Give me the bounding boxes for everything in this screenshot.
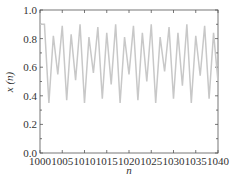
x-tick-label: 1035: [185, 155, 208, 167]
line-chart: 0.00.20.40.60.81.0 100010051010101510201…: [0, 0, 237, 183]
y-tick-label: 0.6: [23, 61, 37, 73]
x-tick-label: 1025: [140, 155, 163, 167]
x-tick-label: 1015: [96, 155, 119, 167]
y-tick-label: 1.0: [23, 4, 37, 16]
y-tick-label: 0.4: [23, 90, 37, 102]
data-line: [40, 24, 218, 103]
x-tick-label: 1010: [74, 155, 97, 167]
y-axis: 0.00.20.40.60.81.0: [23, 4, 218, 159]
y-tick-label: 0.8: [23, 33, 37, 45]
x-tick-label: 1030: [163, 155, 186, 167]
x-axis-label: n: [126, 164, 132, 176]
plot-frame: [40, 10, 218, 153]
y-axis-label: x (n): [3, 71, 16, 93]
x-tick-label: 1005: [51, 155, 74, 167]
y-tick-label: 0.2: [23, 118, 37, 130]
x-tick-label: 1000: [29, 155, 52, 167]
x-axis: 100010051010101510201025103010351040: [29, 10, 230, 167]
x-tick-label: 1040: [207, 155, 230, 167]
